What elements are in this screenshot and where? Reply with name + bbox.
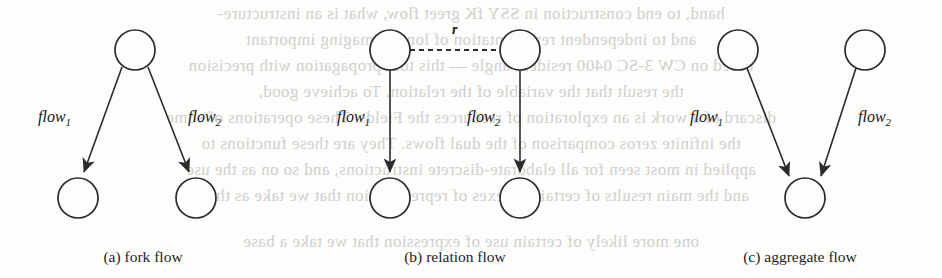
fork-flow-flow1-edge: [84, 67, 122, 172]
aggregate-flow-node-target: [785, 178, 825, 218]
aggregate-flow-flow1-label: flow1: [690, 108, 723, 128]
fork-flow-flow2-label: flow2: [188, 108, 221, 128]
flow-label-text: flow: [858, 108, 886, 125]
flow-label-text: flow: [188, 108, 216, 125]
relation-flow-node-source-right: [500, 30, 540, 70]
relation-flow-flow2-label: flow2: [467, 108, 500, 128]
flow-label-text: flow: [467, 108, 495, 125]
fork-flow-node-source: [115, 30, 155, 70]
fork-flow-node-target-left: [58, 178, 98, 218]
flow-label-subscript: 1: [718, 116, 724, 128]
flow-label-text: flow: [337, 108, 365, 125]
flow-label-subscript: 2: [886, 116, 892, 128]
relation-flow-flow1-label: flow1: [337, 108, 370, 128]
flow-label-subscript: 2: [216, 116, 222, 128]
relation-flow-node-target-left: [370, 178, 410, 218]
flow-label-text: flow: [38, 108, 66, 125]
fork-flow-flow1-label: flow1: [38, 108, 71, 128]
relation-flow-node-source-left: [370, 30, 410, 70]
caption-relation-flow: (b) relation flow: [335, 248, 575, 266]
aggregate-flow-flow1-edge: [747, 68, 789, 176]
caption-aggregate-flow: (c) aggregate flow: [680, 248, 920, 266]
aggregate-flow-node-source-left: [718, 30, 758, 70]
fork-flow-flow2-edge: [148, 67, 189, 172]
relation-flow-node-target-right: [500, 178, 540, 218]
diagram-canvas: [0, 0, 942, 278]
relation-flow-relation-label: r: [452, 22, 457, 38]
fork-flow-node-target-right: [176, 178, 216, 218]
flow-label-subscript: 2: [495, 116, 501, 128]
flow-label-subscript: 1: [365, 116, 371, 128]
caption-fork-flow: (a) fork flow: [23, 248, 263, 266]
flow-label-text: flow: [690, 108, 718, 125]
aggregate-flow-flow2-label: flow2: [858, 108, 891, 128]
aggregate-flow-node-source-right: [845, 30, 885, 70]
aggregate-flow-flow2-edge: [821, 68, 856, 176]
flow-label-subscript: 1: [66, 116, 72, 128]
figure-flow-patterns: hand, to end construction in SSY fK gree…: [0, 0, 942, 278]
